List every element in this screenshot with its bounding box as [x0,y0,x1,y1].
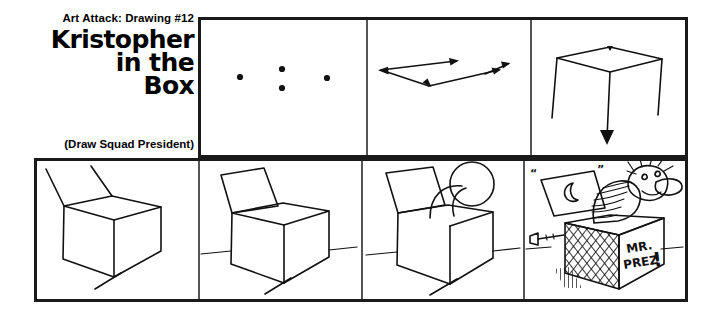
title-line-3: Box [34,74,194,97]
arrowhead-upper-right [449,58,459,66]
hair-1 [628,162,634,171]
dot-bottom [279,85,285,91]
quote-mark-right: ” [597,163,604,176]
panel-cube-with-lid-lines [37,161,198,299]
quote-mark-left: “ [530,167,537,180]
arrow-upper-left-stroke [381,61,456,70]
crescent-moon-icon [565,183,578,201]
panel-box-open-lid [199,161,361,299]
arrow-lower-left-stroke [381,70,429,86]
cube-top-face [64,196,161,220]
dot-left [237,74,243,80]
box-top-face [398,205,493,226]
cube-lid-lines-drawing [37,161,198,299]
four-dots-drawing [201,20,366,155]
drawing-page: Art Attack: Drawing #12 Kristopher in th… [0,0,722,317]
subtitle-text: (Draw Squad President) [64,138,194,150]
box-left-edge [397,213,450,284]
box-top-drop-drawing [531,20,685,155]
box-top-face [232,203,329,225]
panel-finished-jack-in-the-box: “ ” MR. [524,161,685,299]
eye-right [655,171,660,176]
panel-arrow-chevron [367,20,530,155]
panel-box-top-drop [531,20,685,155]
head-circle [450,162,494,206]
top-row-frame [198,17,688,158]
panel-head-emerging [362,161,523,299]
arrowhead-right-upper [501,62,511,69]
kicker-text: Art Attack: Drawing #12 [34,12,194,25]
lid-line-left [46,169,64,206]
vertical-edge-center [607,72,610,138]
ground-line-right [493,248,520,251]
title-block: Art Attack: Drawing #12 Kristopher in th… [34,8,198,156]
arrowhead-down [600,130,614,145]
tick-top-vertex [607,46,613,51]
eye-left [642,174,647,179]
box-right-edge [284,211,329,283]
ground-line-right [329,247,357,250]
crank-knob [530,233,538,245]
lid-flap [541,171,605,216]
hair-4 [658,161,663,166]
neck-spring [430,186,462,218]
panel-four-dots [201,20,366,155]
crank-detail-2 [553,234,554,239]
cube-left-face-edge [63,206,114,277]
head-emerging-drawing [362,161,523,299]
hair-5 [664,166,673,171]
box-open-lid-drawing [199,161,361,299]
crank-shaft [538,235,564,239]
hair-3 [650,161,652,165]
vertical-edge-right [658,59,662,115]
lid-line-center [91,166,112,196]
box-right-edge [450,212,493,284]
page-title: Kristopher in the Box [34,28,194,97]
ground-line-left [366,252,397,255]
bottom-row-frame: “ ” MR. [34,158,688,302]
ground-line-left [526,247,551,249]
box-label-exclaim: ! [651,247,664,272]
dot-top [279,66,285,72]
ground-line-left [201,251,231,254]
box-top-rhombus [557,47,662,72]
dot-right [324,75,330,81]
vertical-edge-left [552,58,557,118]
finished-character-drawing: “ ” MR. [524,161,685,299]
crank-detail-1 [546,235,547,240]
arrow-chevron-drawing [367,20,530,155]
